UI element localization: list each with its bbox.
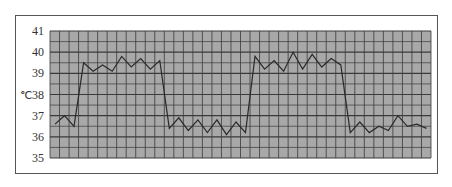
y-tick-label: 36	[32, 130, 44, 144]
temperature-line-chart: 35363738394041 ℃	[0, 0, 452, 187]
y-axis-unit-label: ℃	[20, 89, 32, 101]
grid-lines	[50, 31, 431, 158]
y-tick-label: 35	[32, 151, 44, 165]
y-tick-label: 38	[32, 88, 44, 102]
y-tick-label: 37	[32, 109, 44, 123]
y-tick-label: 41	[32, 24, 44, 38]
y-axis-ticks: 35363738394041	[32, 24, 44, 165]
y-tick-label: 40	[32, 45, 44, 59]
y-tick-label: 39	[32, 66, 44, 80]
